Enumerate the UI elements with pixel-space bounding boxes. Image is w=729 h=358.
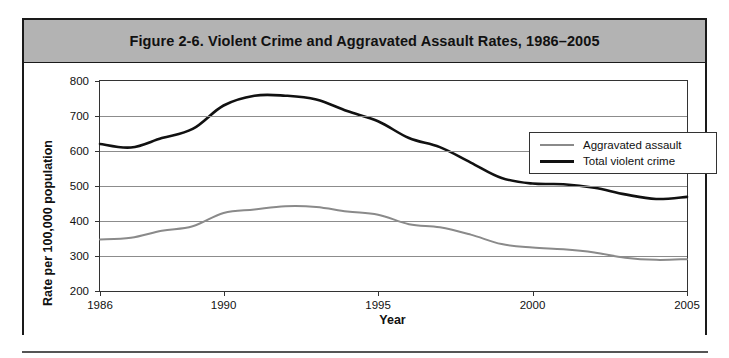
- plot-region: Rate per 100,000 population 200300400500…: [24, 63, 705, 337]
- x-tick-label: 1995: [365, 299, 391, 311]
- y-tick-mark: [95, 221, 100, 222]
- gridline: [100, 221, 687, 222]
- x-tick-mark: [378, 291, 379, 296]
- x-tick-label: 2000: [520, 299, 546, 311]
- legend-item-total-violent-crime: Total violent crime: [536, 153, 710, 169]
- y-tick-label: 600: [55, 145, 89, 157]
- legend-item-aggravated-assault: Aggravated assault: [536, 137, 710, 153]
- chart-legend: Aggravated assault Total violent crime: [529, 132, 717, 174]
- legend-swatch-icon: [540, 160, 574, 163]
- legend-label: Total violent crime: [583, 155, 675, 167]
- x-axis-label: Year: [99, 313, 686, 327]
- x-tick-label: 1986: [87, 299, 113, 311]
- legend-label: Aggravated assault: [583, 139, 681, 151]
- x-tick-mark: [100, 291, 101, 296]
- y-tick-mark: [95, 186, 100, 187]
- page-divider: [22, 351, 708, 353]
- y-tick-mark: [95, 256, 100, 257]
- y-tick-label: 400: [55, 215, 89, 227]
- figure-container: Figure 2-6. Violent Crime and Aggravated…: [22, 18, 707, 335]
- series-line: [100, 206, 687, 260]
- y-tick-label: 500: [55, 180, 89, 192]
- y-tick-label: 700: [55, 110, 89, 122]
- y-tick-label: 800: [55, 75, 89, 87]
- figure-title-band: Figure 2-6. Violent Crime and Aggravated…: [24, 20, 705, 63]
- y-tick-label: 300: [55, 250, 89, 262]
- gridline: [100, 256, 687, 257]
- gridline: [100, 116, 687, 117]
- x-tick-label: 2005: [674, 299, 700, 311]
- y-tick-mark: [95, 81, 100, 82]
- x-tick-mark: [687, 291, 688, 296]
- plot-frame: 2003004005006007008001986199019952000200…: [99, 80, 688, 292]
- y-tick-mark: [95, 151, 100, 152]
- page-title: Figure 2-6. Violent Crime and Aggravated…: [129, 33, 599, 49]
- x-tick-label: 1990: [211, 299, 237, 311]
- x-tick-mark: [224, 291, 225, 296]
- y-tick-label: 200: [55, 285, 89, 297]
- x-tick-mark: [533, 291, 534, 296]
- legend-swatch-icon: [540, 144, 574, 146]
- y-tick-mark: [95, 116, 100, 117]
- y-axis-label-text: Rate per 100,000 population: [41, 140, 55, 306]
- gridline: [100, 186, 687, 187]
